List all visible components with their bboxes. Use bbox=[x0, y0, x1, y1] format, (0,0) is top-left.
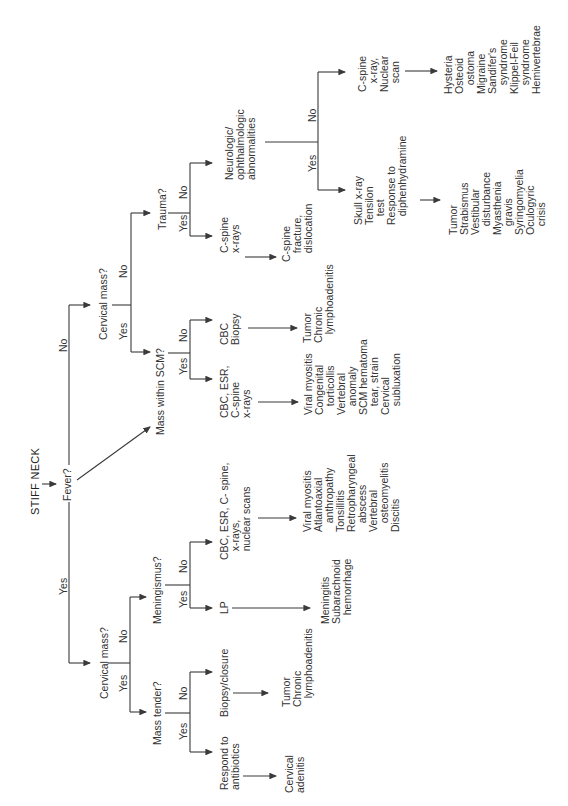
node-neuro-abnormalities: Neurologic/ ophthalmologic abnormalities bbox=[224, 109, 257, 180]
node-skull-xray: Skull x-ray Tensilon test Response to di… bbox=[353, 136, 408, 225]
result-tumor-list: Tumor Strabismus Vestibular disturbance … bbox=[448, 169, 547, 235]
result-hysteria-list: Hysteria Osteoid ostoma Migraine Sandife… bbox=[443, 25, 542, 94]
label-no: No bbox=[178, 560, 189, 573]
label-yes: Yes bbox=[178, 358, 189, 375]
node-lp: LP bbox=[219, 601, 230, 614]
label-no: No bbox=[307, 109, 318, 122]
result-tumor-chronic-2: Tumor Chronic lymphoadenitis bbox=[302, 264, 335, 343]
label-yes: Yes bbox=[58, 578, 69, 595]
node-mass-within-scm: Mass within SCM? bbox=[155, 348, 166, 435]
label-yes: Yes bbox=[307, 155, 318, 172]
node-cbc-esr-scans: CBC, ESR, C- spine, x-rays, nuclear scan… bbox=[219, 463, 252, 560]
label-no: No bbox=[178, 329, 189, 342]
label-yes: Yes bbox=[178, 591, 189, 608]
node-cbc-esr-cspine: CBC, ESR, C-spine x-rays bbox=[219, 365, 252, 418]
node-cervical-mass-left: Cervical mass? bbox=[99, 627, 110, 699]
label-no: No bbox=[118, 630, 129, 643]
result-cspine-fracture: C-spine fracture, dislocation bbox=[281, 204, 314, 262]
label-no: No bbox=[178, 687, 189, 700]
node-cspine-xrays: C-spine x-rays bbox=[219, 217, 241, 253]
node-trauma: Trauma? bbox=[157, 188, 168, 230]
label-yes: Yes bbox=[118, 675, 129, 692]
label-no: No bbox=[58, 339, 69, 352]
label-no: No bbox=[178, 186, 189, 199]
node-mass-tender: Mass tender? bbox=[152, 681, 163, 745]
result-viral-list-2: Viral myositis Congenital torticollis Ve… bbox=[303, 339, 402, 415]
node-cspine-nuclear: C-spine x-ray, Nuclear scan bbox=[357, 56, 401, 92]
node-fever: Fever? bbox=[62, 468, 73, 501]
result-meningitis: Meningitis Subarachnoid hemorrhage bbox=[320, 559, 353, 624]
node-respond-antibiotics: Respond to antibiotics bbox=[219, 736, 241, 790]
result-cervical-adenitis: Cervical adenitis bbox=[284, 755, 306, 793]
label-no: No bbox=[118, 265, 129, 278]
node-biopsy-closure: Biopsy/closure bbox=[219, 649, 230, 717]
result-tumor-chronic-1: Tumor Chronic lymphoadenitis bbox=[281, 628, 314, 707]
flowchart-page: STIFF NECK Fever? Yes No Cervical mass? … bbox=[0, 0, 568, 806]
label-yes: Yes bbox=[118, 323, 129, 340]
label-yes: Yes bbox=[178, 723, 189, 740]
node-cervical-mass-right: Cervical mass? bbox=[98, 268, 109, 340]
node-meningismus: Meningismus? bbox=[152, 556, 163, 624]
result-viral-list-1: Viral myositis Atlantoaxial anthropathy … bbox=[302, 454, 401, 532]
label-yes: Yes bbox=[178, 215, 189, 232]
title-stiff-neck: STIFF NECK bbox=[30, 448, 41, 515]
node-cbc-biopsy: CBC Biopsy bbox=[219, 313, 241, 345]
